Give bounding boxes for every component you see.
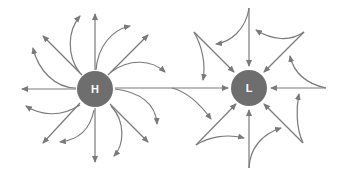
low-pressure-center: L <box>231 70 267 106</box>
high-label: H <box>91 83 99 95</box>
pressure-systems-diagram: H L <box>0 0 344 172</box>
high-pressure-center: H <box>77 71 113 107</box>
low-label: L <box>246 82 253 94</box>
